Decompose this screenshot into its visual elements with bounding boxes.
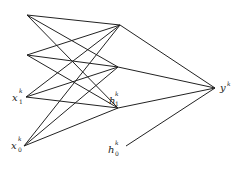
node-label-y: y k <box>219 80 231 93</box>
svg-text:x: x <box>11 140 17 151</box>
svg-text:0: 0 <box>115 150 119 157</box>
edge-a-h3 <box>27 15 118 67</box>
edge-x1-h1 <box>26 97 118 108</box>
svg-text:0: 0 <box>18 146 22 153</box>
svg-text:x: x <box>12 92 18 103</box>
edge-h2-y <box>120 25 215 88</box>
svg-text:k: k <box>19 87 23 94</box>
svg-text:k: k <box>227 80 231 87</box>
svg-text:k: k <box>115 139 119 146</box>
node-label-x0: x k 0 <box>11 135 22 153</box>
svg-text:1: 1 <box>19 98 23 105</box>
node-label-x1: x k 1 <box>12 87 23 105</box>
edge-h3-y <box>118 67 215 88</box>
edge-x0-h1 <box>24 108 118 146</box>
svg-text:k: k <box>115 90 119 97</box>
edge-x1-h2 <box>26 25 120 97</box>
edge-x0-h2 <box>24 25 120 146</box>
svg-text:k: k <box>18 135 22 142</box>
edges <box>24 15 215 146</box>
network-diagram: x k 1 x k 0 h k 1 h k 0 y k <box>0 0 240 170</box>
node-label-h0: h k 0 <box>108 139 119 157</box>
svg-text:y: y <box>219 82 226 93</box>
svg-text:h: h <box>108 144 114 155</box>
svg-text:1: 1 <box>115 100 119 107</box>
edge-x1-h3 <box>26 67 118 97</box>
node-label-h1: h k 1 <box>109 90 119 107</box>
